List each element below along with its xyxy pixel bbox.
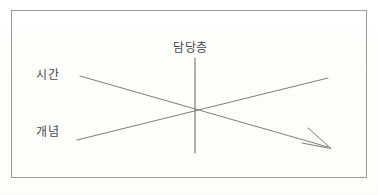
label-concept: 개념 bbox=[36, 126, 59, 138]
time-line-arrowhead bbox=[302, 128, 331, 149]
diagram-page: 시간 개념 담당층 bbox=[0, 0, 378, 195]
label-level: 담당층 bbox=[173, 42, 208, 54]
concept-line bbox=[77, 78, 328, 140]
diagram-border bbox=[12, 11, 367, 178]
label-time: 시간 bbox=[36, 69, 59, 81]
time-line bbox=[80, 76, 328, 147]
diagram-canvas bbox=[0, 0, 378, 195]
